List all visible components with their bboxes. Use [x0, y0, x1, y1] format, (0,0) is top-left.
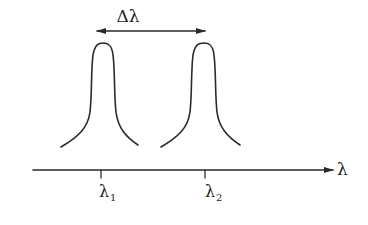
- tick-lambda-1: λ 1: [99, 170, 116, 203]
- diagram-canvas: Δλ λ λ 1 λ 2: [0, 0, 368, 225]
- peak-2-curve: [161, 43, 240, 147]
- axis-label: λ: [337, 159, 348, 179]
- separation-label: Δλ: [116, 6, 139, 26]
- tick-label-main: λ: [99, 182, 109, 201]
- tick-label-main: λ: [205, 182, 215, 201]
- peak-1-curve: [61, 43, 138, 147]
- wavelength-axis: λ λ 1 λ 2: [33, 159, 348, 203]
- tick-lambda-2: λ 2: [205, 170, 222, 203]
- tick-label-sub: 2: [216, 192, 222, 203]
- tick-label-sub: 1: [110, 192, 116, 203]
- separation-indicator: Δλ: [97, 6, 205, 31]
